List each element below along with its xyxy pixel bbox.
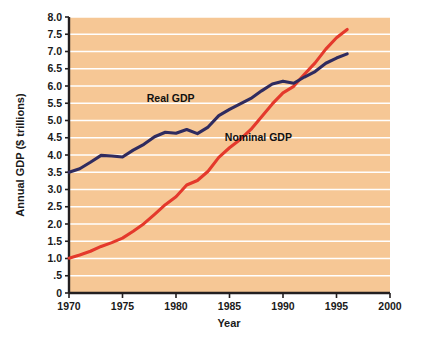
- y-axis-tick-label: 3.0: [47, 183, 62, 195]
- y-axis-tick-label: 5.0: [47, 114, 62, 126]
- x-axis-tick-label: 1970: [57, 300, 81, 312]
- y-axis-tick-label: 1.5: [47, 235, 62, 247]
- y-axis-tick-label: 4.0: [47, 149, 62, 161]
- y-axis-tick-label: 5.5: [47, 97, 62, 109]
- y-axis-tick-label: 7.5: [47, 28, 62, 40]
- series-label-real-gdp: Real GDP: [147, 92, 195, 104]
- series-label-nominal-gdp: Nominal GDP: [225, 131, 292, 143]
- y-axis-ticks-group: 0.51.01.52.02.53.03.54.04.55.05.56.06.57…: [47, 11, 69, 299]
- x-axis-tick-label: 1990: [271, 300, 295, 312]
- chart-svg: 0.51.01.52.02.53.03.54.04.55.05.56.06.57…: [0, 0, 425, 337]
- y-axis-tick-label: 0: [56, 287, 62, 299]
- x-axis-tick-label: 1985: [218, 300, 242, 312]
- x-axis-tick-label: 1995: [325, 300, 349, 312]
- y-axis-title: Annual GDP ($ trillions): [14, 93, 26, 217]
- y-axis-tick-label: 2.0: [47, 218, 62, 230]
- y-axis-tick-label: 6.0: [47, 80, 62, 92]
- x-axis-tick-label: 1980: [164, 300, 188, 312]
- y-axis-tick-label: 7.0: [47, 45, 62, 57]
- y-axis-tick-label: .5: [53, 269, 62, 281]
- y-axis-tick-label: 8.0: [47, 11, 62, 23]
- y-axis-tick-label: 6.5: [47, 62, 62, 74]
- y-axis-tick-label: 2.5: [47, 200, 62, 212]
- y-axis-tick-label: 4.5: [47, 131, 62, 143]
- y-axis-tick-label: 3.5: [47, 166, 62, 178]
- x-axis-tick-label: 2000: [378, 300, 402, 312]
- x-axis-ticks-group: 1970197519801985199019952000: [57, 293, 402, 312]
- x-axis-title: Year: [217, 317, 241, 329]
- x-axis-tick-label: 1975: [111, 300, 135, 312]
- gdp-line-chart-figure: 0.51.01.52.02.53.03.54.04.55.05.56.06.57…: [0, 0, 425, 337]
- y-axis-tick-label: 1.0: [47, 252, 62, 264]
